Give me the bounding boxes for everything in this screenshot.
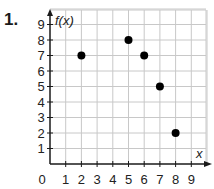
x-tick-label: 5	[125, 172, 132, 187]
data-point	[140, 52, 148, 60]
x-tick-label: 2	[78, 172, 85, 187]
data-point	[77, 52, 85, 60]
data-point	[125, 36, 133, 44]
data-point	[172, 129, 180, 137]
y-tick-label: 6	[37, 64, 44, 79]
y-tick-label: 2	[37, 126, 44, 141]
y-axis-label: f(x)	[55, 13, 74, 28]
y-tick-label: 5	[37, 79, 44, 94]
y-tick-label: 4	[37, 95, 44, 110]
y-tick-label: 7	[37, 48, 44, 63]
data-point	[156, 83, 164, 91]
x-tick-label: 6	[141, 172, 148, 187]
x-tick-label: 3	[93, 172, 100, 187]
x-tick-label: 4	[109, 172, 116, 187]
y-tick-label: 1	[37, 141, 44, 156]
x-tick-label: 1	[62, 172, 69, 187]
x-tick-label: 8	[172, 172, 179, 187]
scatter-chart: 1234567890123456789f(x)x	[0, 0, 214, 189]
origin-label: 0	[38, 172, 45, 187]
x-axis-label: x	[195, 146, 203, 161]
y-tick-label: 9	[37, 17, 44, 32]
y-tick-label: 3	[37, 110, 44, 125]
x-axis-arrow-icon	[204, 161, 212, 167]
y-tick-label: 8	[37, 33, 44, 48]
x-tick-label: 7	[156, 172, 163, 187]
x-tick-label: 9	[188, 172, 195, 187]
